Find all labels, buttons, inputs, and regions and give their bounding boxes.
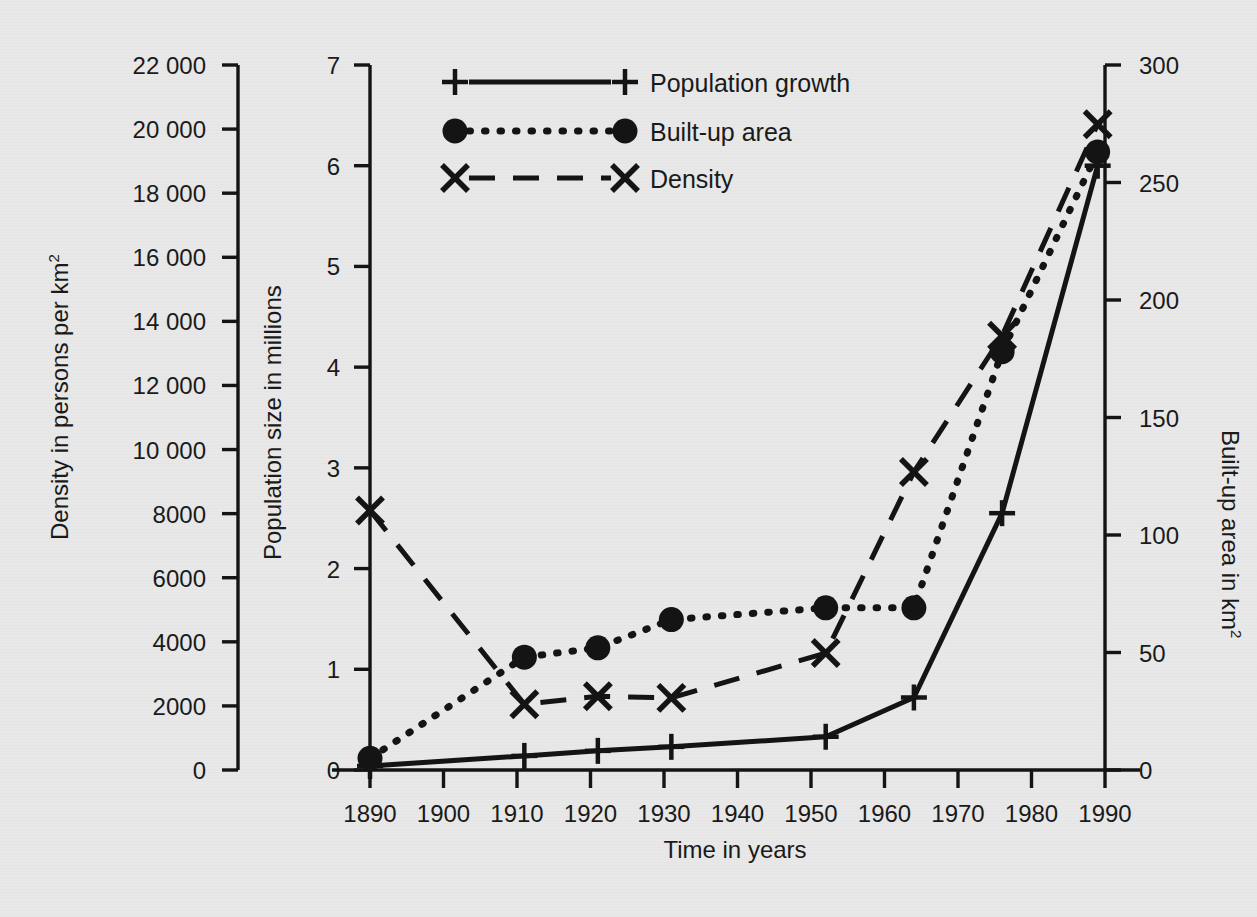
density-axis-tick-label: 22 000: [133, 52, 206, 79]
density-axis-tick-label: 6000: [153, 565, 206, 592]
marker-circle: [813, 595, 838, 620]
x-axis-tick-label: 1940: [711, 800, 764, 827]
density-axis-tick-label: 18 000: [133, 180, 206, 207]
density-axis-tick-label: 0: [193, 757, 206, 784]
series-built-up-area: [358, 139, 1111, 770]
density-axis-tick-label: 4000: [153, 629, 206, 656]
density-axis-tick-label: 20 000: [133, 116, 206, 143]
density-axis-tick-label: 16 000: [133, 244, 206, 271]
series-line-density: [370, 124, 1098, 704]
marker-circle: [585, 635, 610, 660]
series-layer: [357, 111, 1111, 779]
population-axis-tick-label: 3: [327, 455, 340, 482]
builtup-axis-tick-label: 250: [1139, 170, 1179, 197]
legend-entry-built-up-area: Built-up area: [443, 118, 792, 146]
x-axis-ticks: [370, 770, 1105, 788]
x-axis-tick-label: 1920: [564, 800, 617, 827]
series-markers-built-up-area: [358, 139, 1111, 770]
marker-circle: [613, 119, 638, 144]
chart-svg: 0200040006000800010 00012 00014 00016 00…: [0, 0, 1257, 917]
population-axis: 01234567 Population size in millions: [259, 52, 370, 784]
x-axis-tick-label: 1980: [1005, 800, 1058, 827]
density-axis-tick-label: 14 000: [133, 308, 206, 335]
x-axis-tick-label: 1910: [490, 800, 543, 827]
x-axis: 1890190019101920193019401950196019701980…: [332, 770, 1140, 863]
marker-circle: [512, 645, 537, 670]
density-axis-tick-labels: 0200040006000800010 00012 00014 00016 00…: [133, 52, 206, 784]
builtup-axis: 050100150200250300 Built-up area in km2: [1105, 52, 1245, 784]
density-axis-ticks: [222, 65, 238, 770]
legend-label: Built-up area: [650, 118, 792, 146]
x-axis-tick-label: 1890: [343, 800, 396, 827]
chart-legend: Population growthBuilt-up areaDensity: [442, 69, 850, 193]
population-axis-tick-label: 5: [327, 253, 340, 280]
x-axis-tick-label: 1990: [1078, 800, 1131, 827]
population-axis-tick-label: 6: [327, 153, 340, 180]
builtup-axis-tick-label: 300: [1139, 52, 1179, 79]
x-axis-tick-label: 1950: [784, 800, 837, 827]
density-axis-tick-label: 12 000: [133, 372, 206, 399]
x-axis-tick-labels: 1890190019101920193019401950196019701980…: [343, 800, 1131, 827]
series-markers-population-growth: [357, 153, 1111, 779]
series-line-built-up-area: [370, 152, 1098, 758]
marker-circle: [901, 595, 926, 620]
density-axis-title: Density in persons per km2: [45, 254, 73, 540]
builtup-axis-tick-label: 0: [1139, 757, 1152, 784]
density-axis-tick-label: 2000: [153, 693, 206, 720]
population-axis-ticks: [354, 65, 370, 770]
x-axis-tick-label: 1900: [417, 800, 470, 827]
population-axis-title: Population size in millions: [259, 285, 286, 560]
population-axis-tick-labels: 01234567: [327, 52, 340, 784]
series-line-population-growth: [370, 166, 1098, 766]
x-axis-tick-label: 1960: [858, 800, 911, 827]
density-axis-tick-label: 8000: [153, 501, 206, 528]
builtup-axis-tick-labels: 050100150200250300: [1139, 52, 1179, 784]
density-axis-tick-label: 10 000: [133, 437, 206, 464]
population-axis-tick-label: 7: [327, 52, 340, 79]
builtup-axis-tick-label: 200: [1139, 287, 1179, 314]
x-axis-tick-label: 1930: [637, 800, 690, 827]
series-population-growth: [357, 153, 1111, 779]
marker-circle: [659, 607, 684, 632]
builtup-axis-tick-label: 50: [1139, 640, 1166, 667]
legend-label: Population growth: [650, 69, 850, 97]
x-axis-title: Time in years: [663, 836, 806, 863]
builtup-axis-title: Built-up area in km2: [1217, 430, 1245, 638]
builtup-axis-tick-label: 100: [1139, 522, 1179, 549]
legend-label: Density: [650, 165, 734, 193]
marker-circle: [358, 746, 383, 771]
builtup-axis-tick-label: 150: [1139, 405, 1179, 432]
density-axis: 0200040006000800010 00012 00014 00016 00…: [45, 52, 238, 784]
builtup-axis-ticks: [1105, 65, 1121, 770]
series-density: [357, 111, 1111, 717]
population-axis-tick-label: 2: [327, 556, 340, 583]
x-axis-tick-label: 1970: [931, 800, 984, 827]
marker-circle: [443, 119, 468, 144]
population-axis-tick-label: 4: [327, 354, 340, 381]
legend-entry-density: Density: [442, 165, 734, 193]
series-markers-density: [357, 111, 1111, 717]
marker-circle: [1085, 139, 1110, 164]
population-axis-tick-label: 1: [327, 656, 340, 683]
chart-figure: 0200040006000800010 00012 00014 00016 00…: [0, 0, 1257, 917]
legend-entry-population-growth: Population growth: [442, 69, 850, 97]
